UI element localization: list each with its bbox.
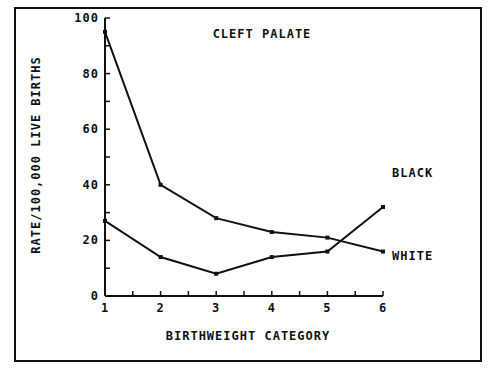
series-line-white <box>105 32 383 252</box>
x-tick-label: 3 <box>212 301 220 315</box>
y-tick-label: 20 <box>83 233 99 247</box>
data-point <box>103 30 107 34</box>
x-tick-label: 2 <box>156 301 164 315</box>
data-point <box>214 272 218 276</box>
data-point <box>270 230 274 234</box>
data-point <box>103 219 107 223</box>
data-point <box>159 255 163 259</box>
data-point <box>325 236 329 240</box>
line-chart: 020406080100123456 WHITEBLACK CLEFT PALA… <box>0 0 492 373</box>
series-label-black: BLACK <box>392 166 433 180</box>
x-tick-label: 4 <box>268 301 276 315</box>
series-lines: WHITEBLACK <box>103 30 433 276</box>
y-tick-label: 40 <box>83 178 99 192</box>
y-tick-label: 60 <box>83 122 99 136</box>
x-axis-label: BIRTHWEIGHT CATEGORY <box>166 329 331 343</box>
data-point <box>270 255 274 259</box>
y-tick-label: 100 <box>74 11 99 25</box>
x-tick-label: 6 <box>379 301 387 315</box>
data-point <box>381 205 385 209</box>
series-label-white: WHITE <box>392 249 433 263</box>
y-axis-label: RATE/100,000 LIVE BIRTHS <box>29 56 43 253</box>
data-point <box>381 250 385 254</box>
y-tick-label: 80 <box>83 67 99 81</box>
x-tick-label: 5 <box>323 301 331 315</box>
chart-title: CLEFT PALATE <box>213 27 312 41</box>
series-line-black <box>105 207 383 274</box>
x-tick-label: 1 <box>101 301 109 315</box>
data-point <box>325 250 329 254</box>
data-point <box>159 183 163 187</box>
data-point <box>214 216 218 220</box>
y-tick-label: 0 <box>91 289 99 303</box>
